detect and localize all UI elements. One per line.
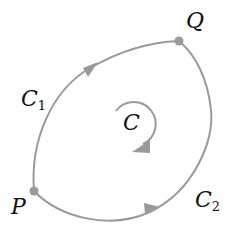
label-q: Q — [186, 10, 204, 32]
label-c1-main: C — [21, 86, 38, 111]
point-q — [175, 37, 184, 46]
label-c2-main: C — [195, 187, 212, 212]
label-q-text: Q — [186, 8, 204, 33]
arrow-loop-icon — [132, 140, 150, 153]
label-p-text: P — [11, 194, 26, 219]
label-loop-text: C — [123, 110, 140, 135]
label-c1: C1 — [21, 88, 46, 112]
arrow-c1-icon — [83, 62, 98, 77]
curve-c1 — [34, 41, 179, 191]
diagram-canvas: Q P C1 C2 C — [0, 0, 231, 231]
label-p: P — [11, 196, 26, 218]
label-c2-sub: 2 — [212, 199, 220, 214]
point-p — [30, 187, 39, 196]
label-c1-sub: 1 — [38, 98, 46, 113]
label-loop-c: C — [123, 112, 140, 134]
label-c2: C2 — [195, 189, 220, 213]
